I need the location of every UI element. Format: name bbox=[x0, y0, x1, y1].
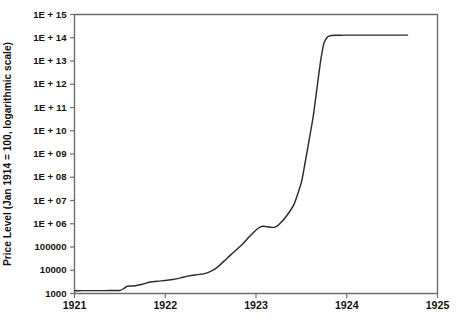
x-axis-tick-labels: 19211922192319241925 bbox=[63, 299, 450, 311]
y-tick-label: 1E + 06 bbox=[33, 218, 66, 229]
y-tick-label: 1E + 11 bbox=[34, 102, 67, 113]
y-tick-label: 1E + 15 bbox=[33, 9, 67, 20]
y-axis-title-text: Price Level (Jan 1914 = 100, logarithmic… bbox=[2, 42, 13, 266]
price-level-line-chart: 1E + 151E + 141E + 131E + 121E + 111E + … bbox=[0, 0, 459, 321]
chart-container: 1E + 151E + 141E + 131E + 121E + 111E + … bbox=[0, 0, 459, 321]
x-tick-label: 1923 bbox=[244, 299, 268, 311]
y-tick-label: 1E + 08 bbox=[33, 171, 67, 182]
x-tick-label: 1925 bbox=[426, 299, 450, 311]
x-tick-label: 1921 bbox=[63, 299, 87, 311]
x-tick-label: 1924 bbox=[335, 299, 359, 311]
y-tick-label: 1E + 10 bbox=[33, 125, 66, 136]
x-tick-label: 1922 bbox=[153, 299, 177, 311]
plot-frame bbox=[75, 15, 438, 294]
data-series-group bbox=[75, 35, 408, 291]
y-tick-label: 100000 bbox=[34, 241, 66, 252]
y-axis-tick-labels: 1E + 151E + 141E + 131E + 121E + 111E + … bbox=[33, 9, 67, 299]
y-tick-label: 1E + 07 bbox=[33, 195, 66, 206]
y-tick-label: 1E + 12 bbox=[33, 78, 66, 89]
data-line-series-0 bbox=[75, 35, 408, 291]
y-tick-label: 1E + 13 bbox=[33, 55, 66, 66]
y-tick-label: 1E + 14 bbox=[33, 32, 67, 43]
y-tick-label: 1E + 09 bbox=[33, 148, 66, 159]
y-tick-label: 10000 bbox=[40, 264, 67, 275]
y-tick-label: 1000 bbox=[45, 288, 66, 299]
y-axis-title: Price Level (Jan 1914 = 100, logarithmic… bbox=[2, 42, 13, 266]
